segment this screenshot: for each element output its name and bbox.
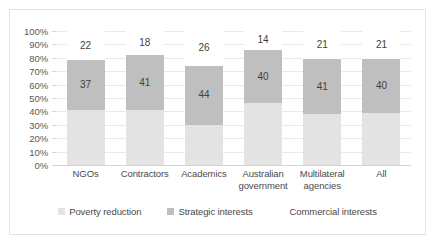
data-label: 44 <box>198 90 209 100</box>
y-axis-tick-mark <box>52 138 56 139</box>
x-axis-label-line: agencies <box>293 180 352 192</box>
legend-item[interactable]: Strategic interests <box>167 206 252 217</box>
data-label: 21 <box>376 40 387 50</box>
legend-item[interactable]: Commercial interests <box>279 206 377 217</box>
x-axis-label-line: Multilateral <box>293 168 352 180</box>
y-axis-tick-label: 90% <box>29 39 48 50</box>
bar-segment-commercial-interests[interactable]: 21 <box>362 31 400 59</box>
bar-segment-poverty-reduction[interactable] <box>303 114 341 165</box>
x-axis-category-label: NGOs <box>56 168 115 180</box>
bar-segment-commercial-interests[interactable]: 14 <box>244 31 282 50</box>
x-axis-category-label: Contractors <box>115 168 174 180</box>
bar-group[interactable]: 4118 <box>115 31 174 165</box>
y-axis-tick-mark <box>52 165 56 166</box>
legend-label: Commercial interests <box>290 206 377 217</box>
x-axis-label-line: government <box>234 180 293 192</box>
data-label: 40 <box>258 72 269 82</box>
y-axis-tick-mark <box>52 58 56 59</box>
bar-segment-poverty-reduction[interactable] <box>67 110 105 165</box>
bar-segment-strategic-interests[interactable]: 44 <box>185 66 223 125</box>
bar-segment-strategic-interests[interactable]: 41 <box>303 59 341 114</box>
y-axis-tick-mark <box>52 152 56 153</box>
y-axis-tick-label: 70% <box>29 66 48 77</box>
bar-group[interactable]: 4426 <box>174 31 233 165</box>
x-axis-label-line: NGOs <box>56 168 115 180</box>
data-label: 41 <box>139 78 150 88</box>
bar-segment-commercial-interests[interactable]: 18 <box>126 31 164 55</box>
x-axis-label-line: All <box>352 168 411 180</box>
y-axis: 100%90%80%70%60%50%40%30%20%10%0% <box>10 31 52 165</box>
y-axis-tick-mark <box>52 31 56 32</box>
y-axis-tick-label: 60% <box>29 79 48 90</box>
bar-segment-poverty-reduction[interactable] <box>185 125 223 165</box>
x-axis-label-line: Academics <box>174 168 233 180</box>
x-axis-category-label: All <box>352 168 411 180</box>
bar-group[interactable]: 4014 <box>234 31 293 165</box>
bar-segment-commercial-interests[interactable]: 26 <box>185 31 223 66</box>
y-axis-tick-label: 10% <box>29 146 48 157</box>
x-axis-category-label: Multilateralagencies <box>293 168 352 191</box>
y-axis-tick-label: 50% <box>29 93 48 104</box>
y-axis-tick-mark <box>52 85 56 86</box>
legend-label: Strategic interests <box>178 206 252 217</box>
plot-area: 372241184426401441214021 <box>56 31 411 165</box>
legend-swatch-icon <box>167 208 174 215</box>
y-axis-tick-label: 20% <box>29 133 48 144</box>
x-axis-line <box>56 165 411 166</box>
data-label: 26 <box>198 43 209 53</box>
y-axis-tick-label: 100% <box>24 26 48 37</box>
data-label: 37 <box>80 80 91 90</box>
x-axis-category-label: Academics <box>174 168 233 180</box>
bar-group[interactable]: 4121 <box>293 31 352 165</box>
y-axis-tick-mark <box>52 111 56 112</box>
bar-segment-poverty-reduction[interactable] <box>126 110 164 165</box>
y-axis-tick-label: 80% <box>29 52 48 63</box>
data-label: 18 <box>139 38 150 48</box>
chart-frame: 100%90%80%70%60%50%40%30%20%10%0% 372241… <box>9 9 426 235</box>
legend-swatch-icon <box>58 208 65 215</box>
bar-segment-commercial-interests[interactable]: 22 <box>67 31 105 60</box>
y-axis-tick-mark <box>52 44 56 45</box>
y-axis-tick-label: 40% <box>29 106 48 117</box>
y-axis-tick-label: 0% <box>34 160 48 171</box>
chart-legend: Poverty reductionStrategic interestsComm… <box>10 206 425 217</box>
y-axis-tick-mark <box>52 71 56 72</box>
bar-group[interactable]: 3722 <box>56 31 115 165</box>
x-axis-label-line: Contractors <box>115 168 174 180</box>
bar-group[interactable]: 4021 <box>352 31 411 165</box>
bar-segment-strategic-interests[interactable]: 41 <box>126 55 164 110</box>
y-axis-tick-label: 30% <box>29 119 48 130</box>
data-label: 14 <box>258 35 269 45</box>
bar-segment-poverty-reduction[interactable] <box>244 103 282 165</box>
x-axis-category-label: Australiangovernment <box>234 168 293 191</box>
data-label: 22 <box>80 41 91 51</box>
data-label: 41 <box>317 82 328 92</box>
x-axis: NGOsContractorsAcademicsAustraliangovern… <box>56 168 411 200</box>
data-label: 40 <box>376 81 387 91</box>
bar-segment-poverty-reduction[interactable] <box>362 113 400 165</box>
y-axis-tick-mark <box>52 98 56 99</box>
bar-segment-strategic-interests[interactable]: 37 <box>67 60 105 110</box>
bar-segment-commercial-interests[interactable]: 21 <box>303 31 341 59</box>
bar-segment-strategic-interests[interactable]: 40 <box>362 59 400 113</box>
legend-label: Poverty reduction <box>69 206 141 217</box>
bar-segment-strategic-interests[interactable]: 40 <box>244 50 282 104</box>
data-label: 21 <box>317 40 328 50</box>
legend-item[interactable]: Poverty reduction <box>58 206 141 217</box>
y-axis-tick-mark <box>52 125 56 126</box>
legend-swatch-icon <box>279 208 286 215</box>
x-axis-label-line: Australian <box>234 168 293 180</box>
